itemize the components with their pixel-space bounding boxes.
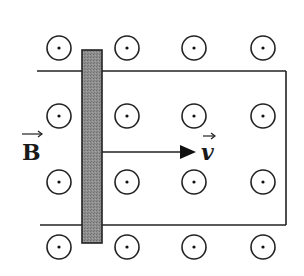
rails [37, 71, 286, 225]
field-out-of-page-icon [47, 170, 71, 194]
velocity-label: v [201, 139, 214, 165]
velocity-arrowhead-icon [180, 145, 196, 159]
velocity-vector: v [102, 133, 215, 165]
field-out-of-page-icon [251, 36, 275, 60]
field-out-of-page-icon [251, 235, 275, 259]
magnetic-field-label-group: B [22, 131, 42, 165]
field-vector-arrow-icon [22, 131, 42, 137]
field-out-of-page-icon [115, 36, 139, 60]
field-out-of-page-icon [251, 170, 275, 194]
field-out-of-page-icon [182, 104, 206, 128]
magnetic-field-label: B [22, 139, 41, 165]
field-out-of-page-icon [182, 170, 206, 194]
field-out-of-page-icon [47, 235, 71, 259]
field-out-of-page-icon [182, 235, 206, 259]
field-out-of-page-icon [115, 235, 139, 259]
magnetic-field-diagram: v B [0, 0, 304, 276]
conducting-rod [82, 50, 102, 243]
field-out-of-page-icon [115, 170, 139, 194]
field-out-of-page-icon [251, 104, 275, 128]
field-out-of-page-icon [47, 36, 71, 60]
field-out-of-page-icon [115, 104, 139, 128]
field-out-of-page-icon [182, 36, 206, 60]
field-out-of-page-icon [47, 104, 71, 128]
